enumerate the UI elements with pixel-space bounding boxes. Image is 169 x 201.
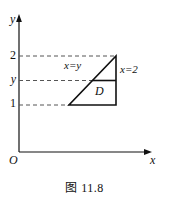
diagonal-line-label: x=y	[64, 60, 81, 71]
vertical-line-label: x=2	[120, 64, 138, 75]
y-tick-label-y: y	[6, 73, 16, 85]
x-axis-label: x	[150, 154, 155, 166]
region-label-d: D	[95, 85, 104, 97]
figure-caption: 图 11.8	[0, 178, 169, 196]
y-tick-label-2: 2	[6, 49, 16, 61]
y-tick-label-1: 1	[6, 97, 16, 109]
coordinate-plot	[0, 0, 169, 176]
y-axis-arrowhead	[16, 14, 22, 22]
y-axis-label: y	[10, 13, 15, 25]
figure-container: y x O 2 y 1 x=y x=2 D 图 11.8	[0, 0, 169, 201]
origin-label: O	[9, 154, 18, 166]
